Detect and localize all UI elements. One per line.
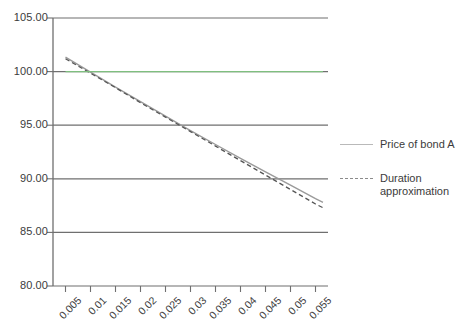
chart-plot-area	[0, 0, 461, 336]
y-axis-tick-label: 95.00	[0, 118, 48, 130]
gridlines-group	[53, 18, 328, 286]
legend-label-price-of-bond-a: Price of bond A	[380, 138, 455, 151]
y-tick-marks-group	[47, 18, 53, 286]
series-line-price-of-bond-a	[66, 57, 324, 202]
legend-line-sample-dashed-icon	[340, 173, 373, 185]
data-series-group	[66, 57, 324, 208]
legend-line-sample-solid-icon	[340, 139, 373, 151]
y-axis-tick-label: 80.00	[0, 279, 48, 291]
y-axis-tick-label: 105.00	[0, 11, 48, 23]
legend-item-price-of-bond-a[interactable]: Price of bond A	[340, 138, 455, 151]
y-axis-tick-label: 90.00	[0, 172, 48, 184]
legend-item-duration-approximation[interactable]: Duration approximation	[340, 172, 458, 198]
legend-label-duration-approximation: Duration approximation	[380, 172, 458, 198]
y-axis-tick-label: 85.00	[0, 225, 48, 237]
x-tick-marks-group	[66, 286, 316, 292]
y-axis-tick-label: 100.00	[0, 65, 48, 77]
chart-container: 80.0085.0090.0095.00100.00105.00 0.0050.…	[0, 0, 461, 336]
